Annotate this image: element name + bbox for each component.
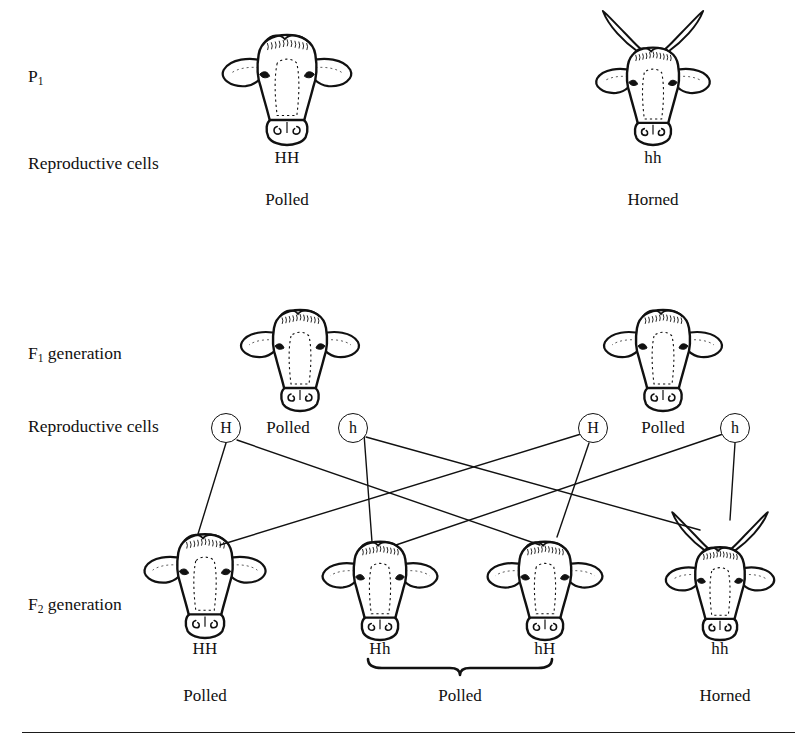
cow-head-f2-hH — [485, 528, 605, 640]
phenotype-f2-polled-left: Polled — [183, 687, 226, 704]
cross-lines-group — [198, 434, 735, 545]
gamete-f1-left-h-label: h — [349, 419, 357, 437]
eye-right — [304, 72, 314, 78]
row-label-reproductive-cells-f1-text: Reproductive cells — [28, 416, 159, 436]
cross-line-h1-to-Hh — [364, 434, 372, 542]
eye-right — [735, 578, 743, 583]
cow-head-f1-right — [598, 296, 728, 411]
cross-line-h1-to-hh — [366, 437, 700, 530]
row-label-f1-sub: 1 — [38, 352, 44, 364]
row-label-f2-suffix: generation — [43, 594, 121, 614]
horn-left — [603, 11, 642, 51]
horn-right — [665, 11, 704, 51]
cow-head-p1-horned — [588, 8, 718, 145]
eye-left — [356, 575, 365, 580]
eye-left — [629, 80, 638, 85]
phenotype-f1-left: Polled — [266, 419, 309, 436]
row-label-f1-generation: F1 generation — [28, 345, 122, 363]
horn-right — [731, 512, 768, 551]
gamete-f1-right-h: h — [720, 413, 750, 443]
row-label-p1: P1 — [28, 68, 43, 86]
phenotype-p1-polled: Polled — [265, 191, 308, 208]
row-label-f1-text: F — [28, 343, 38, 363]
eye-right — [221, 569, 230, 575]
gamete-f1-right-H: H — [578, 413, 608, 443]
genotype-f2-hH: hH — [534, 640, 555, 657]
eye-right — [561, 575, 570, 580]
genotype-p1-polled: HH — [274, 149, 299, 166]
row-label-reproductive-cells-f1: Reproductive cells — [28, 418, 159, 436]
cow-head-f1-left — [235, 296, 365, 411]
cow-head-p1-polled — [222, 20, 352, 145]
eye-left — [179, 569, 188, 575]
eye-right — [668, 80, 677, 85]
gamete-f1-left-H: H — [211, 413, 241, 443]
cow-head-f2-Hh — [320, 528, 440, 640]
row-label-p1-text: P — [28, 66, 38, 86]
phenotype-f1-right: Polled — [641, 419, 684, 436]
eye-left — [521, 575, 530, 580]
genotype-f2-hh: hh — [711, 640, 729, 657]
f2-brace-polled — [368, 659, 552, 675]
gamete-f1-right-H-label: H — [587, 419, 599, 437]
eye-right — [316, 344, 325, 349]
genetics-diagram-canvas: P1 Reproductive cells F1 generation Repr… — [0, 0, 811, 748]
row-label-reproductive-cells-p1: Reproductive cells — [28, 155, 159, 173]
genotype-f2-HH: HH — [192, 640, 217, 657]
genotype-p1-horned: hh — [644, 149, 662, 166]
row-label-p1-sub: 1 — [38, 75, 44, 87]
cow-head-f2-hh — [660, 508, 780, 640]
phenotype-f2-horned-right: Horned — [700, 687, 751, 704]
cross-line-H2-to-hH — [557, 443, 589, 537]
horn-left — [672, 512, 709, 551]
phenotype-p1-horned: Horned — [628, 191, 679, 208]
row-label-f2-text: F — [28, 594, 38, 614]
genotype-f2-Hh: Hh — [369, 640, 390, 657]
phenotype-f2-polled-middle: Polled — [438, 687, 481, 704]
eye-right — [396, 575, 405, 580]
gamete-f1-left-H-label: H — [220, 419, 232, 437]
footer-divider — [22, 732, 795, 733]
eye-left — [697, 578, 705, 583]
row-label-f2-generation: F2 generation — [28, 596, 122, 614]
row-label-reproductive-cells-p1-text: Reproductive cells — [28, 153, 159, 173]
gamete-f1-left-h: h — [338, 413, 368, 443]
row-label-f2-sub: 2 — [38, 603, 44, 615]
row-label-f1-suffix: generation — [43, 343, 121, 363]
eye-left — [260, 72, 270, 78]
eye-left — [275, 344, 284, 349]
eye-left — [638, 344, 647, 349]
eye-right — [679, 344, 688, 349]
cow-head-f2-HH — [145, 520, 265, 638]
gamete-f1-right-h-label: h — [731, 419, 739, 437]
